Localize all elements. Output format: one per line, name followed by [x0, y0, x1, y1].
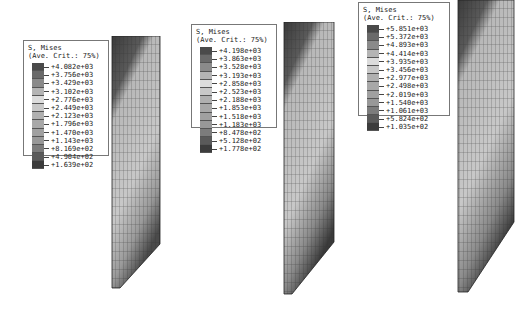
legend-swatch — [200, 80, 212, 88]
legend-value: +4.904e+02 — [51, 153, 93, 161]
legend-value: +1.061e+03 — [386, 107, 428, 115]
legend-tick — [212, 100, 217, 101]
legend-swatch — [367, 123, 379, 131]
legend-tick — [44, 132, 49, 133]
legend-swatch — [200, 55, 212, 63]
legend-row: +3.935e+03 — [367, 58, 445, 66]
legend-rows: +5.851e+03+5.372e+03+4.893e+03+4.414e+03… — [367, 25, 445, 131]
legend-value: +5.824e+02 — [386, 115, 428, 123]
legend-row: +3.528e+03 — [200, 63, 272, 71]
legend-value: +5.128e+02 — [219, 137, 261, 145]
legend-row: +3.102e+03 — [32, 88, 104, 96]
legend-tick — [379, 45, 384, 46]
legend-row: +8.169e+02 — [32, 145, 104, 153]
legend-row: +4.904e+02 — [32, 153, 104, 161]
legend-row: +2.776e+03 — [32, 96, 104, 104]
legend-swatch — [200, 113, 212, 121]
legend-tick — [379, 94, 384, 95]
legend-swatch — [200, 88, 212, 96]
legend-row: +2.498e+03 — [367, 82, 445, 90]
legend-value: +8.169e+02 — [51, 145, 93, 153]
legend-tick — [44, 165, 49, 166]
legend-value: +1.183e+03 — [219, 121, 261, 129]
legend-value: +4.198e+03 — [219, 47, 261, 55]
legend-swatch — [367, 25, 379, 33]
legend-row: +3.193e+03 — [200, 72, 272, 80]
legend-value: +1.035e+02 — [386, 123, 428, 131]
legend-swatch — [367, 74, 379, 82]
legend-row: +2.449e+03 — [32, 104, 104, 112]
legend-swatch — [200, 145, 212, 153]
legend-swatch — [32, 63, 44, 71]
legend-tick — [44, 67, 49, 68]
legend-tick — [212, 75, 217, 76]
legend-row: +3.863e+03 — [200, 55, 272, 63]
legend-row: +2.188e+03 — [200, 96, 272, 104]
legend-tick — [379, 102, 384, 103]
legend-value: +2.523e+03 — [219, 88, 261, 96]
legend-swatch — [32, 137, 44, 145]
legend-swatch — [32, 88, 44, 96]
legend-row: +5.372e+03 — [367, 33, 445, 41]
legend-tick — [379, 61, 384, 62]
legend-rows: +4.198e+03+3.863e+03+3.528e+03+3.193e+03… — [200, 47, 272, 153]
legend-row: +1.518e+03 — [200, 113, 272, 121]
legend-tick — [379, 119, 384, 120]
legend-value: +3.193e+03 — [219, 72, 261, 80]
legend-value: +1.778e+02 — [219, 145, 261, 153]
legend-tick — [379, 110, 384, 111]
legend-row: +1.470e+03 — [32, 129, 104, 137]
legend-tick — [44, 148, 49, 149]
legend-swatch — [367, 50, 379, 58]
legend-rows: +4.082e+03+3.756e+03+3.429e+03+3.102e+03… — [32, 63, 104, 169]
legend-value: +1.518e+03 — [219, 113, 261, 121]
legend-value: +2.449e+03 — [51, 104, 93, 112]
legend-tick — [212, 83, 217, 84]
legend-value: +2.123e+03 — [51, 112, 93, 120]
legend-value: +3.756e+03 — [51, 71, 93, 79]
legend-swatch — [200, 96, 212, 104]
legend-tick — [379, 78, 384, 79]
legend-tick — [44, 99, 49, 100]
legend-title: S, Mises — [196, 28, 272, 36]
legend-swatch — [200, 137, 212, 145]
legend-tick — [44, 140, 49, 141]
mesh-contour-panel-3 — [456, 0, 516, 296]
legend-value: +3.456e+03 — [386, 66, 428, 74]
legend-row: +2.523e+03 — [200, 88, 272, 96]
legend-tick — [379, 29, 384, 30]
legend-swatch — [367, 41, 379, 49]
legend-value: +8.478e+02 — [219, 129, 261, 137]
legend-swatch — [367, 91, 379, 99]
legend-row: +1.035e+02 — [367, 123, 445, 131]
legend-row: +1.540e+03 — [367, 99, 445, 107]
legend-swatch — [200, 63, 212, 71]
legend-value: +5.851e+03 — [386, 25, 428, 33]
legend-row: +1.183e+03 — [200, 121, 272, 129]
legend-subtitle: (Ave. Crit.: 75%) — [28, 52, 104, 60]
legend-value: +3.429e+03 — [51, 79, 93, 87]
legend-subtitle: (Ave. Crit.: 75%) — [363, 14, 445, 22]
legend-swatch — [200, 129, 212, 137]
legend-value: +4.082e+03 — [51, 63, 93, 71]
legend-tick — [212, 141, 217, 142]
legend-row: +4.082e+03 — [32, 63, 104, 71]
legend-swatch — [200, 104, 212, 112]
legend-row: +1.853e+03 — [200, 104, 272, 112]
mesh-contour-panel-1 — [108, 36, 168, 292]
legend-row: +1.796e+03 — [32, 120, 104, 128]
legend-value: +3.528e+03 — [219, 63, 261, 71]
legend-row: +3.756e+03 — [32, 71, 104, 79]
legend-tick — [212, 59, 217, 60]
legend-row: +3.429e+03 — [32, 79, 104, 87]
legend-swatch — [367, 82, 379, 90]
legend-value: +1.796e+03 — [51, 120, 93, 128]
legend-value: +3.935e+03 — [386, 58, 428, 66]
legend-swatch — [32, 153, 44, 161]
legend-swatch — [32, 104, 44, 112]
legend-swatch — [32, 112, 44, 120]
legend-swatch — [32, 96, 44, 104]
legend-title: S, Mises — [363, 6, 445, 14]
legend-value: +2.858e+03 — [219, 80, 261, 88]
legend-value: +2.776e+03 — [51, 96, 93, 104]
